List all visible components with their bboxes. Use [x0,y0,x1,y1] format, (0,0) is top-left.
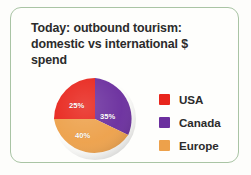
legend-swatch-usa [159,94,170,105]
pie-label-canada: 35% [100,112,115,121]
legend-item-canada: Canada [159,111,243,134]
chart-card: Today: outbound tourism: domestic vs int… [10,7,239,163]
title-line-2: domestic vs international $ [31,36,231,52]
legend-item-usa: USA [159,88,243,111]
title-line-3: spend [31,52,231,68]
legend-label-europe: Europe [179,140,219,152]
chart-legend: USA Canada Europe [159,88,243,157]
page-title: Today: outbound tourism: domestic vs int… [31,20,231,68]
legend-swatch-canada [159,117,170,128]
pie-label-europe: 40% [75,131,90,140]
legend-swatch-europe [159,140,170,151]
pie-shading-overlay [54,78,136,160]
pie-chart-svg [53,77,137,161]
slide-canvas: Today: outbound tourism: domestic vs int… [0,0,251,175]
pie-label-usa: 25% [69,101,84,110]
pie-chart: 25% 35% 40% [53,77,137,161]
legend-label-canada: Canada [179,117,221,129]
legend-label-usa: USA [179,94,203,106]
legend-item-europe: Europe [159,134,243,157]
title-line-1: Today: outbound tourism: [31,20,231,36]
